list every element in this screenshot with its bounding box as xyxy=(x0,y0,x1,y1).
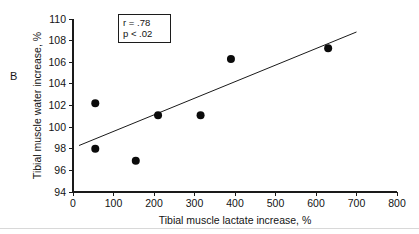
data-point xyxy=(91,145,99,153)
y-tick-label: 94 xyxy=(54,186,66,198)
x-tick-label: 300 xyxy=(186,197,204,209)
x-tick-label: 700 xyxy=(348,197,366,209)
x-tick-label: 0 xyxy=(70,197,76,209)
x-tick-label: 100 xyxy=(105,197,123,209)
data-point xyxy=(324,44,332,52)
regression-line xyxy=(79,32,356,146)
y-tick-label: 100 xyxy=(48,121,66,133)
pvalue-label: p < .02 xyxy=(123,28,152,39)
data-points xyxy=(91,44,332,164)
y-tick-label: 108 xyxy=(48,34,66,46)
x-axis-title: Tibial muscle lactate increase, % xyxy=(159,214,312,226)
scatter-plot: 949698100102104106108110 010020030040050… xyxy=(0,0,419,234)
y-tick-label: 102 xyxy=(48,99,66,111)
y-tick-label: 106 xyxy=(48,56,66,68)
data-point xyxy=(227,55,235,63)
page-divider xyxy=(0,228,419,229)
x-tick-label: 800 xyxy=(388,197,406,209)
y-tick-label: 110 xyxy=(49,13,66,25)
y-tick-label: 98 xyxy=(54,142,66,154)
y-axis: 949698100102104106108110 xyxy=(48,13,73,198)
correlation-label: r = .78 xyxy=(123,17,150,28)
x-tick-label: 200 xyxy=(145,197,163,209)
data-point xyxy=(197,111,205,119)
x-axis: 0100200300400500600700800 xyxy=(70,192,406,209)
figure-panel-b: B 949698100102104106108110 0100200300400… xyxy=(0,0,419,234)
x-tick-label: 400 xyxy=(226,197,244,209)
data-point xyxy=(91,99,99,107)
data-point xyxy=(154,111,162,119)
y-axis-title: Tibial muscle water increase, % xyxy=(31,32,43,179)
trend-line xyxy=(79,32,356,146)
y-tick-label: 104 xyxy=(48,77,66,89)
data-point xyxy=(132,157,140,165)
x-tick-label: 600 xyxy=(307,197,325,209)
y-tick-label: 96 xyxy=(54,164,66,176)
x-tick-label: 500 xyxy=(267,197,285,209)
statistics-annotation: r = .78p < .02 xyxy=(118,14,170,42)
